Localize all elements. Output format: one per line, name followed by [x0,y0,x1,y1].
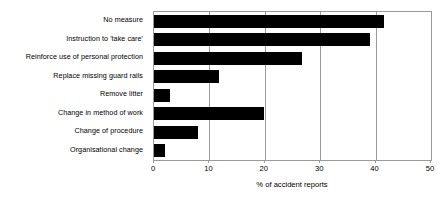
x-tick-mark [153,160,154,163]
category-label: Replace missing guard rails [0,72,148,80]
category-axis-labels: No measureInstruction to 'take care'Rein… [0,11,148,159]
horizontal-bar-chart: No measureInstruction to 'take care'Rein… [0,0,445,202]
x-tick-label: 0 [140,164,166,173]
bar [154,70,219,83]
x-axis-line [153,160,431,161]
bar-series [154,12,431,160]
category-label: Change of procedure [0,127,148,135]
x-tick-mark [264,160,265,163]
bar [154,107,264,120]
x-tick-mark [208,160,209,163]
x-tick-label: 50 [417,164,443,173]
category-label: Change in method of work [0,109,148,117]
x-tick-label: 10 [195,164,221,173]
x-tick-mark [430,160,431,163]
category-label: Reinforce use of personal protection [0,53,148,61]
category-label: Remove litter [0,90,148,98]
x-tick-mark [375,160,376,163]
bar [154,33,370,46]
x-axis-title: % of accident reports [153,180,431,189]
x-tick-label: 40 [362,164,388,173]
bar [154,144,165,157]
bar [154,89,170,102]
x-tick-label: 30 [306,164,332,173]
bar [154,126,198,139]
category-label: No measure [0,16,148,24]
x-tick-label: 20 [251,164,277,173]
x-tick-mark [319,160,320,163]
category-label: Instruction to 'take care' [0,35,148,43]
bar [154,15,384,28]
plot-area [153,11,432,161]
category-label: Organisational change [0,146,148,154]
bar [154,52,302,65]
